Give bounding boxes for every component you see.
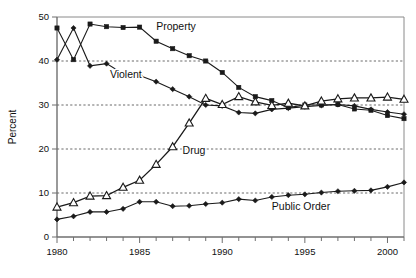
- data-point-public-order-2000: [385, 184, 390, 189]
- series-line-public-order: [57, 182, 404, 219]
- series-label-violent: Violent: [110, 68, 142, 80]
- data-point-public-order-1992: [253, 198, 258, 203]
- data-point-property-1981: [71, 58, 75, 62]
- data-point-violent-1987: [170, 87, 175, 92]
- y-tick-label-10: 10: [38, 187, 49, 198]
- data-point-property-1991: [237, 85, 241, 89]
- data-point-public-order-1996: [319, 190, 324, 195]
- data-point-public-order-2001: [401, 180, 406, 185]
- chart-container: 0102030405019801985199019952000PercentPr…: [0, 0, 416, 278]
- x-tick-label-1985: 1985: [129, 246, 150, 257]
- data-point-property-1986: [154, 39, 158, 43]
- data-point-public-order-1981: [71, 214, 76, 219]
- y-tick-label-40: 40: [38, 55, 49, 66]
- data-point-drug-2000: [383, 93, 391, 100]
- y-tick-label-50: 50: [38, 11, 49, 22]
- data-point-violent-1988: [187, 94, 192, 99]
- data-point-public-order-1980: [54, 217, 59, 222]
- line-chart: 0102030405019801985199019952000PercentPr…: [0, 0, 416, 278]
- data-point-public-order-1985: [137, 199, 142, 204]
- y-tick-label-20: 20: [38, 143, 49, 154]
- data-point-drug-1991: [235, 93, 243, 100]
- data-point-public-order-1995: [302, 192, 307, 197]
- y-tick-label-0: 0: [44, 231, 49, 242]
- data-point-public-order-1990: [220, 200, 225, 205]
- data-point-violent-2001: [401, 112, 406, 117]
- data-point-drug-1989: [202, 94, 210, 101]
- data-point-public-order-1986: [154, 199, 159, 204]
- data-point-public-order-1999: [368, 188, 373, 193]
- data-point-property-1987: [171, 47, 175, 51]
- series-label-public-order: Public Order: [272, 200, 331, 212]
- x-tick-label-2000: 2000: [377, 246, 398, 257]
- data-point-violent-1983: [104, 61, 109, 66]
- data-point-public-order-1984: [120, 206, 125, 211]
- data-point-public-order-1983: [104, 209, 109, 214]
- data-point-property-1990: [220, 70, 224, 74]
- data-point-property-1989: [204, 59, 208, 63]
- data-point-property-1983: [104, 25, 108, 29]
- x-tick-label-1990: 1990: [212, 246, 233, 257]
- data-point-public-order-1987: [170, 204, 175, 209]
- data-point-public-order-1988: [187, 203, 192, 208]
- series-label-property: Property: [156, 20, 196, 32]
- series-label-drug: Drug: [183, 144, 206, 156]
- data-point-violent-1986: [154, 79, 159, 84]
- y-tick-label-30: 30: [38, 99, 49, 110]
- x-tick-label-1980: 1980: [46, 246, 67, 257]
- data-point-violent-1991: [236, 110, 241, 115]
- data-point-property-1982: [88, 22, 92, 26]
- data-point-property-1984: [121, 25, 125, 29]
- data-point-violent-1989: [203, 102, 208, 107]
- data-point-drug-1994: [284, 99, 292, 106]
- data-point-property-1988: [187, 54, 191, 58]
- data-point-property-1985: [138, 25, 142, 29]
- data-point-public-order-1993: [269, 194, 274, 199]
- y-axis-title: Percent: [7, 110, 18, 145]
- data-point-public-order-1989: [203, 201, 208, 206]
- data-point-property-1980: [55, 26, 59, 30]
- x-tick-label-1995: 1995: [294, 246, 315, 257]
- data-point-violent-1992: [253, 111, 258, 116]
- data-point-violent-1982: [87, 63, 92, 68]
- data-point-public-order-1982: [87, 209, 92, 214]
- data-point-violent-1981: [71, 25, 76, 30]
- data-point-public-order-1991: [236, 197, 241, 202]
